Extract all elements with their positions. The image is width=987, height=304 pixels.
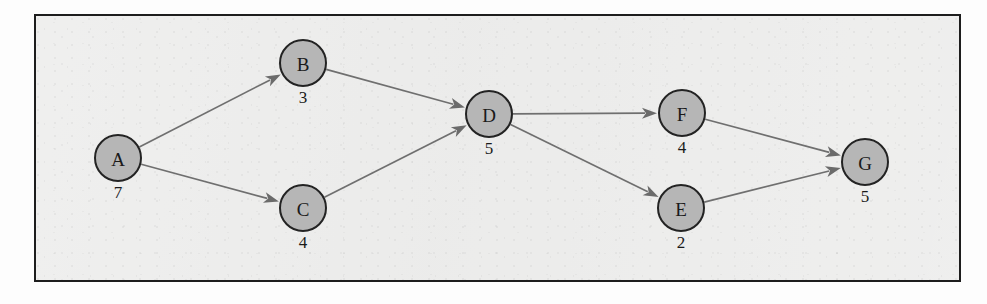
node-label: B [297, 54, 310, 75]
node-weight-label: 4 [299, 233, 308, 252]
graph-canvas: A7B3C4D5F4E2G5 [0, 0, 987, 304]
edge-e-to-g [704, 166, 840, 202]
edge-f-to-g [705, 119, 841, 157]
node-weight-label: 4 [678, 138, 687, 157]
edge-d-to-e [511, 125, 659, 197]
edge-a-to-c [141, 164, 279, 203]
arrowhead-icon [265, 74, 281, 86]
node-weight-label: 2 [677, 233, 686, 252]
graph-node-c[interactable]: C4 [280, 185, 326, 252]
node-label: D [482, 105, 496, 126]
node-label: F [677, 104, 688, 125]
edge-line [705, 119, 829, 152]
graph-node-g[interactable]: G5 [842, 139, 888, 206]
graph-node-b[interactable]: B3 [280, 40, 326, 107]
edge-d-to-f [513, 108, 657, 119]
edge-line [324, 131, 456, 197]
node-weight-label: 7 [114, 183, 123, 202]
graph-node-e[interactable]: E2 [658, 185, 704, 252]
graph-node-f[interactable]: F4 [659, 90, 705, 157]
edge-line [513, 113, 645, 114]
graph-node-a[interactable]: A7 [95, 135, 141, 202]
figure-page: A7B3C4D5F4E2G5 [0, 0, 987, 304]
node-label: E [675, 199, 687, 220]
graph-node-d[interactable]: D5 [466, 91, 512, 158]
edge-c-to-d [324, 125, 466, 197]
node-label: A [111, 149, 125, 170]
node-weight-label: 3 [299, 88, 308, 107]
node-weight-label: 5 [861, 187, 870, 206]
edge-line [326, 69, 453, 104]
edge-line [139, 80, 270, 147]
nodes-layer: A7B3C4D5F4E2G5 [95, 40, 888, 252]
node-label: G [858, 153, 872, 174]
edge-line [704, 171, 829, 202]
edge-line [141, 164, 267, 198]
arrowhead-icon [451, 125, 467, 137]
edge-b-to-d [326, 69, 465, 108]
edge-a-to-b [139, 74, 280, 147]
node-weight-label: 5 [485, 139, 494, 158]
edge-line [511, 125, 648, 192]
node-label: C [297, 199, 310, 220]
